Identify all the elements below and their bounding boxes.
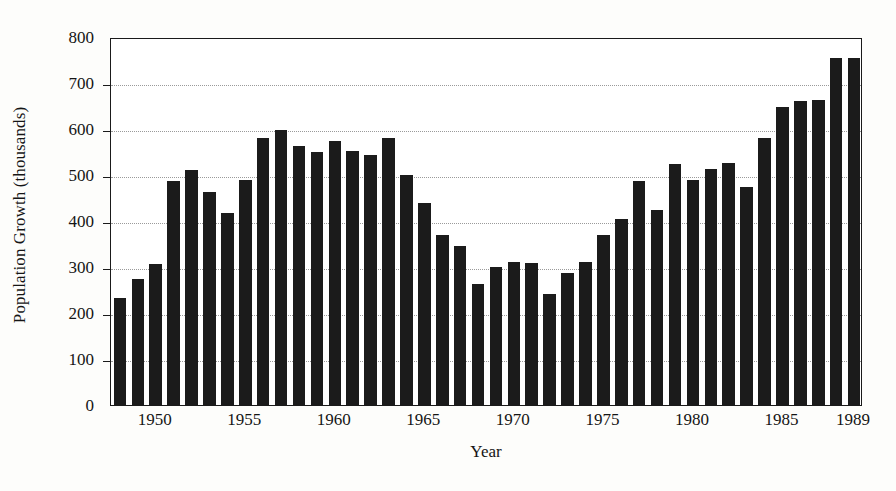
bar xyxy=(687,180,700,405)
y-tick-label: 600 xyxy=(69,120,95,140)
bar xyxy=(329,141,342,405)
bar xyxy=(776,107,789,405)
bar xyxy=(221,213,234,405)
y-tick-mark xyxy=(103,361,111,362)
x-tick-label: 1965 xyxy=(406,410,440,430)
bar xyxy=(740,187,753,405)
x-tick-label: 1970 xyxy=(496,410,530,430)
bar xyxy=(722,163,735,405)
y-tick-label: 300 xyxy=(69,258,95,278)
bar-series xyxy=(111,39,861,405)
bar xyxy=(436,235,449,405)
bar xyxy=(597,235,610,405)
bar xyxy=(185,170,198,405)
bar xyxy=(490,267,503,405)
bar xyxy=(239,180,252,405)
x-axis-title: Year xyxy=(110,442,862,462)
x-tick-label: 1989 xyxy=(836,410,870,430)
bar xyxy=(812,100,825,405)
chart-page: Population Growth (thousands) 0100200300… xyxy=(0,0,896,491)
y-tick-mark xyxy=(103,85,111,86)
y-tick-mark xyxy=(103,131,111,132)
bar xyxy=(311,152,324,405)
bar xyxy=(149,264,162,405)
bar xyxy=(615,219,628,405)
bar xyxy=(275,130,288,405)
bar xyxy=(293,146,306,405)
bar xyxy=(418,203,431,405)
x-tick-label: 1960 xyxy=(317,410,351,430)
bar xyxy=(758,138,771,405)
bar xyxy=(669,164,682,406)
y-tick-label: 200 xyxy=(69,304,95,324)
bar xyxy=(472,284,485,405)
bar xyxy=(525,263,538,405)
bar xyxy=(543,294,556,405)
bar xyxy=(167,181,180,405)
bar xyxy=(400,175,413,405)
y-tick-mark xyxy=(103,269,111,270)
bar xyxy=(579,262,592,405)
y-tick-mark xyxy=(103,177,111,178)
y-tick-label: 500 xyxy=(69,166,95,186)
x-tick-label: 1975 xyxy=(585,410,619,430)
plot-area xyxy=(110,38,862,406)
x-axis-tick-labels: 195019551960196519701975198019851989 xyxy=(110,410,862,440)
bar xyxy=(114,298,127,405)
bar xyxy=(830,58,843,405)
x-tick-label: 1955 xyxy=(227,410,261,430)
x-tick-label: 1950 xyxy=(138,410,172,430)
bar xyxy=(346,151,359,405)
bar xyxy=(132,279,145,405)
bar xyxy=(454,246,467,405)
bar xyxy=(508,262,521,405)
y-tick-label: 800 xyxy=(69,28,95,48)
bar xyxy=(364,155,377,405)
bar xyxy=(705,169,718,405)
bar xyxy=(633,181,646,405)
y-axis-title-text: Population Growth (thousands) xyxy=(10,107,30,323)
x-tick-label: 1980 xyxy=(675,410,709,430)
y-tick-label: 700 xyxy=(69,74,95,94)
y-tick-label: 0 xyxy=(86,396,95,416)
y-tick-label: 100 xyxy=(69,350,95,370)
y-tick-mark xyxy=(103,223,111,224)
bar xyxy=(794,101,807,405)
y-axis-tick-labels: 0100200300400500600700800 xyxy=(44,0,102,430)
x-tick-label: 1985 xyxy=(764,410,798,430)
y-tick-label: 400 xyxy=(69,212,95,232)
bar xyxy=(382,138,395,405)
bar xyxy=(651,210,664,406)
bar xyxy=(561,273,574,405)
y-tick-mark xyxy=(103,315,111,316)
bar xyxy=(848,58,861,405)
bar xyxy=(203,192,216,405)
y-axis-title: Population Growth (thousands) xyxy=(0,0,40,430)
bar xyxy=(257,138,270,405)
